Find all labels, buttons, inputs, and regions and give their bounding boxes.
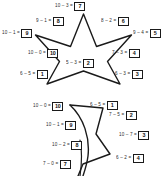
equation-expression: 9 – 1 = (36, 19, 51, 24)
equation-expression: 5 – 3 = (66, 61, 81, 66)
answer-box[interactable]: 4 (133, 154, 144, 163)
equation-label: 7 – 0 = 7 (43, 160, 71, 169)
equation-expression: 10 – 0 = (28, 51, 46, 56)
equation-expression: 10 – 0 = (33, 104, 51, 109)
star-puzzle-bottom: 10 – 0 = 10 6 – 5 = 1 10 – 1 = 9 7 – 5 =… (0, 88, 167, 176)
answer-box[interactable]: 4 (129, 49, 140, 58)
answer-box[interactable]: 9 (65, 121, 76, 130)
equation-expression: 10 – 7 = (119, 133, 137, 138)
equation-label: 6 – 2 = 4 (116, 154, 144, 163)
equation-label: 10 – 2 = 8 (52, 141, 82, 150)
answer-box[interactable]: 1 (107, 101, 118, 110)
equation-expression: 8 – 2 = (101, 19, 116, 24)
equation-expression: 10 – 2 = (52, 143, 70, 148)
answer-box[interactable]: 5 (150, 29, 161, 38)
equation-label: 5 – 3 = 2 (66, 59, 94, 68)
equation-label: 7 – 3 = 4 (112, 49, 140, 58)
equation-expression: 7 – 0 = (43, 162, 58, 167)
equation-expression: 7 – 3 = (112, 51, 127, 56)
answer-box[interactable]: 10 (52, 102, 63, 111)
equation-label: 10 – 1 = 9 (46, 121, 76, 130)
equation-label: 9 – 4 = 5 (133, 29, 161, 38)
answer-box[interactable]: 1 (37, 70, 48, 79)
equation-expression: 10 – 3 = (55, 4, 73, 9)
equation-label: 6 – 5 = 1 (20, 70, 48, 79)
answer-box[interactable]: 3 (138, 131, 149, 140)
equation-expression: 10 – 1 = (2, 31, 20, 36)
answer-box[interactable]: 7 (74, 2, 85, 11)
equation-label: 10 – 0 = 10 (28, 49, 58, 58)
equation-expression: 6 – 5 = (90, 103, 105, 108)
equation-expression: 7 – 5 = (109, 113, 124, 118)
answer-box[interactable]: 3 (132, 70, 143, 79)
answer-box[interactable]: 8 (71, 141, 82, 150)
equation-expression: 9 – 4 = (133, 31, 148, 36)
equation-expression: 6 – 3 = (115, 72, 130, 77)
answer-box[interactable]: 9 (21, 29, 32, 38)
equation-label: 10 – 3 = 7 (55, 2, 85, 11)
answer-box[interactable]: 2 (83, 59, 94, 68)
equation-expression: 10 – 1 = (46, 123, 64, 128)
subtraction-star-worksheet: 10 – 3 = 7 9 – 1 = 8 8 – 2 = 6 10 – 1 = … (0, 0, 167, 176)
answer-box[interactable]: 7 (60, 160, 71, 169)
equation-label: 8 – 2 = 6 (101, 17, 129, 26)
equation-label: 7 – 5 = 2 (109, 111, 137, 120)
answer-box[interactable]: 8 (53, 17, 64, 26)
equation-label: 10 – 7 = 3 (119, 131, 149, 140)
equation-label: 9 – 1 = 8 (36, 17, 64, 26)
equation-label: 6 – 3 = 3 (115, 70, 143, 79)
equation-label: 10 – 0 = 10 (33, 102, 63, 111)
answer-box[interactable]: 6 (118, 17, 129, 26)
equation-expression: 6 – 5 = (20, 72, 35, 77)
equation-label: 10 – 1 = 9 (2, 29, 32, 38)
equation-expression: 6 – 2 = (116, 156, 131, 161)
answer-box[interactable]: 10 (47, 49, 58, 58)
star-puzzle-top: 10 – 3 = 7 9 – 1 = 8 8 – 2 = 6 10 – 1 = … (0, 0, 167, 88)
answer-box[interactable]: 2 (126, 111, 137, 120)
equation-label: 6 – 5 = 1 (90, 101, 118, 110)
